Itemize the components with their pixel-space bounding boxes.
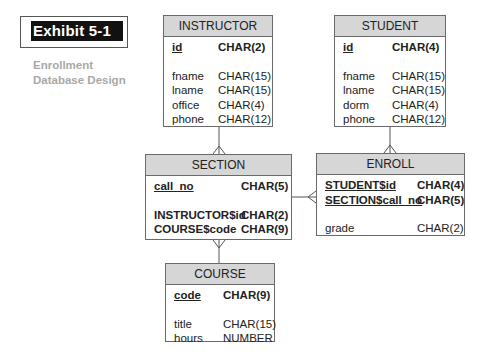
key-row: call_noCHAR(5)	[146, 179, 291, 194]
entity-title: ENROLL	[317, 154, 464, 175]
attribute-row: fnameCHAR(15)	[164, 69, 272, 84]
attribute-row: dormCHAR(4)	[335, 98, 445, 113]
key-row: STUDENT$idCHAR(4)	[317, 178, 464, 193]
entity-title: COURSE	[166, 264, 274, 285]
attribute-row: hoursNUMBER	[166, 331, 274, 346]
key-row: SECTION$call_noCHAR(5)	[317, 193, 464, 208]
attribute-row: officeCHAR(4)	[164, 98, 272, 113]
key-row: idCHAR(2)	[164, 40, 272, 55]
caption-line-1: Enrollment	[33, 58, 126, 73]
diagram-caption: Enrollment Database Design	[33, 58, 126, 87]
attribute-row: lnameCHAR(15)	[335, 83, 445, 98]
entity-title: INSTRUCTOR	[164, 16, 272, 37]
entity-title: STUDENT	[335, 16, 445, 37]
exhibit-box: Exhibit 5-1	[20, 16, 128, 48]
entity-enroll: ENROLL STUDENT$idCHAR(4) SECTION$call_no…	[316, 153, 465, 236]
entity-student: STUDENT idCHAR(4) fnameCHAR(15) lnameCHA…	[334, 15, 446, 127]
caption-line-2: Database Design	[33, 73, 126, 88]
entity-section: SECTION call_noCHAR(5) INSTRUCTOR$idCHAR…	[145, 154, 292, 240]
key-row: idCHAR(4)	[335, 40, 445, 55]
attribute-row: titleCHAR(15)	[166, 317, 274, 332]
attribute-row: phoneCHAR(12)	[164, 112, 272, 127]
key-row: codeCHAR(9)	[166, 288, 274, 303]
foreign-key-row: INSTRUCTOR$idCHAR(2)	[146, 208, 291, 223]
attribute-row: lnameCHAR(15)	[164, 83, 272, 98]
foreign-key-row: COURSE$codeCHAR(9)	[146, 222, 291, 237]
attribute-row: fnameCHAR(15)	[335, 69, 445, 84]
exhibit-label: Exhibit 5-1	[31, 21, 123, 41]
entity-title: SECTION	[146, 155, 291, 176]
attribute-row: gradeCHAR(2)	[317, 221, 464, 236]
entity-instructor: INSTRUCTOR idCHAR(2) fnameCHAR(15) lname…	[163, 15, 273, 127]
attribute-row: phoneCHAR(12)	[335, 112, 445, 127]
entity-course: COURSE codeCHAR(9) titleCHAR(15) hoursNU…	[165, 263, 275, 342]
